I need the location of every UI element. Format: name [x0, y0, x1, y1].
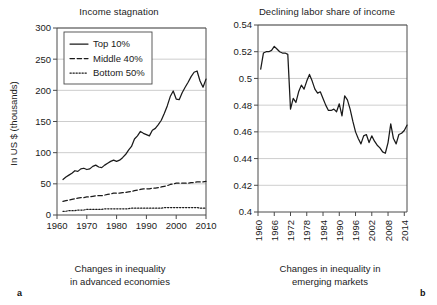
y-tick-label-3: 0.46 [234, 126, 253, 137]
panel-b-labor-share: Declining labor share of income 0.40.420… [217, 0, 437, 305]
x-tick-label-0: 1960 [253, 220, 264, 241]
panel-a-income-stagnation: Income stagnation In US $ (thousands) 05… [0, 0, 220, 305]
x-tick-label-5: 2010 [195, 220, 216, 231]
y-tick-label-2: 0.44 [234, 153, 253, 164]
panel-letter-a: a [17, 288, 22, 298]
panel-b-plot: 0.40.420.440.460.480.50.520.541960196619… [217, 0, 437, 305]
x-tick-label-4: 2000 [166, 220, 187, 231]
panel-b-caption-line1: Changes in inequality in [223, 263, 437, 276]
panel-letter-b: b [420, 288, 426, 298]
figure-two-panel-charts: Income stagnation In US $ (thousands) 05… [0, 0, 437, 305]
y-tick-label-4: 200 [35, 85, 51, 96]
panel-a-plot: 0501001502002503001960197019801990200020… [0, 0, 220, 305]
x-tick-label-2: 1980 [106, 220, 127, 231]
x-tick-label-2: 1972 [285, 220, 296, 241]
x-tick-label-5: 1990 [334, 220, 345, 241]
series-line-2 [63, 208, 206, 212]
x-tick-label-8: 2008 [383, 220, 394, 241]
y-tick-label-7: 0.54 [234, 19, 253, 30]
y-tick-label-5: 250 [35, 54, 51, 65]
y-tick-label-6: 0.52 [234, 46, 253, 57]
y-tick-label-6: 300 [35, 22, 51, 33]
x-tick-label-3: 1990 [136, 220, 157, 231]
y-tick-label-2: 100 [35, 147, 51, 158]
x-tick-label-7: 2002 [366, 220, 377, 241]
x-tick-label-1: 1966 [269, 220, 280, 241]
y-tick-label-4: 0.48 [234, 100, 253, 111]
x-tick-label-1: 1970 [76, 220, 97, 231]
series-line-0 [261, 46, 407, 153]
x-tick-label-9: 2014 [399, 220, 410, 241]
panel-b-caption: Changes in inequality in emerging market… [217, 263, 437, 288]
y-tick-label-1: 50 [40, 178, 51, 189]
y-tick-label-1: 0.42 [234, 180, 253, 191]
legend: Top 10%Middle 40%Bottom 50% [64, 32, 152, 84]
x-tick-label-0: 1960 [46, 220, 67, 231]
y-tick-label-3: 150 [35, 116, 51, 127]
series-line-1 [63, 181, 206, 201]
x-tick-label-6: 1996 [350, 220, 361, 241]
panel-a-caption-line2: in advanced economies [20, 276, 220, 289]
panel-a-caption-line1: Changes in inequality [20, 263, 220, 276]
legend-label-1: Middle 40% [93, 53, 143, 64]
y-tick-label-0: 0 [46, 209, 51, 220]
x-tick-label-4: 1984 [318, 220, 329, 241]
y-tick-label-0: 0.4 [239, 206, 252, 217]
panel-b-caption-line2: emerging markets [223, 276, 437, 289]
panel-a-caption: Changes in inequality in advanced econom… [0, 263, 220, 288]
series-line-0 [63, 71, 206, 179]
legend-label-0: Top 10% [93, 38, 131, 49]
legend-label-2: Bottom 50% [93, 67, 145, 78]
y-tick-label-5: 0.5 [239, 73, 252, 84]
x-tick-label-3: 1978 [301, 220, 312, 241]
